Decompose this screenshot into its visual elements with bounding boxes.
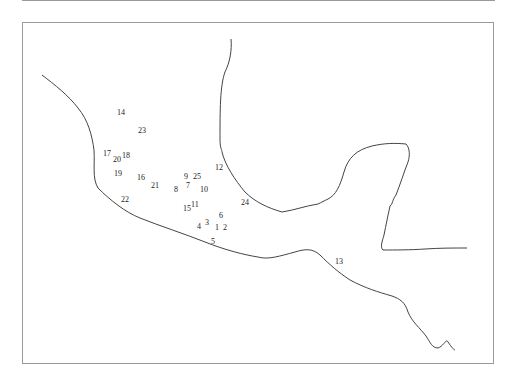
coastline-south <box>42 75 455 350</box>
station-label: 25 <box>193 173 201 181</box>
station-label: 14 <box>117 109 125 117</box>
station-label: 22 <box>121 196 129 204</box>
station-label: 13 <box>335 258 343 266</box>
station-label: 23 <box>138 127 146 135</box>
coastline-map <box>0 0 515 389</box>
station-label: 2 <box>223 224 227 232</box>
station-label: 7 <box>186 182 190 190</box>
station-label: 3 <box>205 219 209 227</box>
coastline-north <box>220 39 467 250</box>
station-label: 8 <box>174 186 178 194</box>
station-label: 18 <box>122 152 130 160</box>
station-label: 24 <box>241 199 249 207</box>
station-label: 20 <box>113 156 121 164</box>
station-label: 6 <box>219 212 223 220</box>
station-label: 21 <box>151 182 159 190</box>
station-label: 19 <box>114 170 122 178</box>
station-label: 16 <box>137 174 145 182</box>
station-label: 9 <box>184 173 188 181</box>
station-label: 1 <box>215 224 219 232</box>
station-label: 5 <box>211 238 215 246</box>
station-label: 15 <box>183 205 191 213</box>
station-label: 11 <box>191 201 199 209</box>
station-label: 12 <box>215 164 223 172</box>
station-label: 10 <box>200 186 208 194</box>
station-label: 17 <box>103 150 111 158</box>
station-label: 4 <box>197 223 201 231</box>
